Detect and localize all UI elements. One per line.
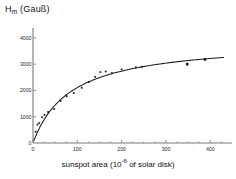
plot-area: 010020030040001000200030004000 (0, 0, 236, 179)
data-point (100, 71, 102, 73)
data-point (44, 114, 46, 116)
svg-text:1000: 1000 (20, 114, 32, 120)
svg-text:2000: 2000 (20, 87, 32, 93)
data-point (60, 100, 62, 102)
data-point (47, 111, 49, 113)
svg-text:300: 300 (162, 146, 171, 152)
svg-text:100: 100 (73, 146, 82, 152)
data-point (73, 92, 75, 94)
data-point (53, 108, 55, 110)
data-point (81, 87, 83, 89)
svg-text:200: 200 (117, 146, 126, 152)
tick-labels: 010020030040001000200030004000 (20, 35, 215, 152)
data-points (35, 58, 206, 132)
data-point (141, 66, 143, 68)
data-point (105, 71, 107, 73)
svg-text:3000: 3000 (20, 61, 32, 67)
svg-text:0: 0 (29, 140, 32, 146)
fitted-curve (34, 57, 224, 140)
data-point (121, 69, 123, 71)
data-point (35, 131, 37, 133)
x-axis-label-post: of solar disk) (127, 160, 175, 169)
data-point (186, 63, 189, 66)
tick-marks (33, 38, 221, 143)
axes (33, 28, 232, 143)
x-axis-label-pre: sunspot area (10 (62, 160, 122, 169)
svg-text:0: 0 (32, 146, 35, 152)
svg-text:4000: 4000 (20, 35, 32, 41)
data-point (66, 95, 68, 97)
x-axis-label: sunspot area (10-6 of solar disk) (0, 158, 236, 169)
data-point (204, 58, 207, 61)
data-point (37, 124, 39, 126)
data-point (88, 81, 90, 83)
data-point (135, 66, 137, 68)
data-point (41, 116, 43, 118)
svg-text:400: 400 (206, 146, 215, 152)
sunspot-field-figure: Hm (Gauß) 010020030040001000200030004000… (0, 0, 236, 179)
data-point (94, 76, 96, 78)
data-point (38, 122, 40, 124)
data-point (111, 72, 113, 74)
